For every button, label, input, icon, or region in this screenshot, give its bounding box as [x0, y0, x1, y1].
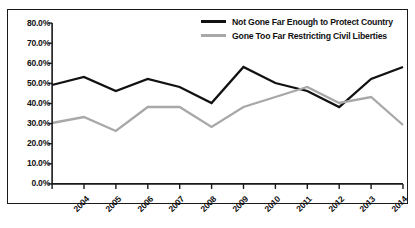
legend-color-swatch	[201, 20, 226, 24]
y-axis-tick-label: 70.0%	[27, 38, 50, 48]
legend-item[interactable]: Not Gone Far Enough to Protect Country	[201, 15, 407, 28]
x-axis: 2004200520062007200820092010201120122013…	[52, 192, 403, 228]
x-axis-tick-label: 2007	[167, 194, 187, 214]
y-axis-tick-label: 80.0%	[27, 18, 50, 28]
y-axis-tick-label: 40.0%	[27, 98, 50, 108]
legend-color-swatch	[201, 34, 226, 38]
x-axis-tick-label: 2009	[230, 194, 250, 214]
legend-item[interactable]: Gone Too Far Restricting Civil Liberties	[201, 29, 407, 42]
legend-label: Not Gone Far Enough to Protect Country	[232, 17, 393, 27]
plot-area	[52, 23, 403, 183]
x-axis-tick-label: 2010	[262, 194, 282, 214]
x-axis-tick-label: 2006	[135, 194, 155, 214]
x-axis-tick-label: 2008	[199, 194, 219, 214]
x-axis-tick-label: 2004	[71, 194, 91, 214]
y-axis: 0.0%10.0%20.0%30.0%40.0%50.0%60.0%70.0%8…	[8, 10, 52, 203]
y-axis-tick-label: 0.0%	[31, 178, 50, 188]
line-chart-svg	[52, 23, 403, 183]
series-line	[52, 87, 403, 131]
y-axis-tick-label: 10.0%	[27, 158, 50, 168]
x-axis-tick-label: 2013	[358, 194, 378, 214]
x-axis-tick-label: 2012	[326, 194, 346, 214]
chart-container: 0.0%10.0%20.0%30.0%40.0%50.0%60.0%70.0%8…	[7, 9, 408, 204]
x-axis-tick-label: 2005	[103, 194, 123, 214]
chart-legend: Not Gone Far Enough to Protect CountryGo…	[201, 15, 407, 43]
y-axis-tick-label: 50.0%	[27, 78, 50, 88]
x-axis-tick-label: 2011	[294, 194, 314, 214]
y-axis-tick-label: 20.0%	[27, 138, 50, 148]
y-axis-tick-label: 30.0%	[27, 118, 50, 128]
x-axis-tick-label: 2014	[389, 194, 409, 214]
y-axis-tick-label: 60.0%	[27, 58, 50, 68]
legend-label: Gone Too Far Restricting Civil Liberties	[232, 31, 387, 41]
